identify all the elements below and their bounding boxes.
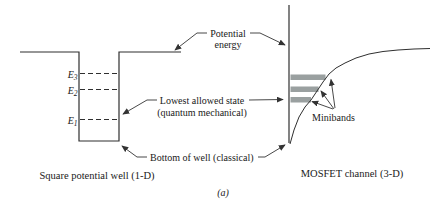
bottom-of-well-arrow-left [122, 146, 147, 157]
minibands-arrow-3 [331, 80, 335, 109]
lowest-state-arrow-right [249, 100, 283, 101]
lowest-state-label-line2: (quantum mechanical) [157, 107, 247, 119]
minibands-arrow-2 [321, 91, 334, 109]
miniband-bar-1 [291, 75, 326, 81]
potential-energy-arrow-left [175, 33, 207, 50]
lowest-state-label-line1: Lowest allowed state [160, 95, 245, 106]
bottom-of-well-label: Bottom of well (classical) [150, 152, 254, 164]
miniband-bar-3 [291, 97, 312, 103]
miniband-bar-2 [291, 87, 319, 93]
mosfet-potential-curve [290, 49, 430, 145]
square-well-outline [20, 52, 181, 141]
right-panel-caption: MOSFET channel (3-D) [301, 168, 404, 180]
potential-energy-arrow-right [250, 33, 285, 45]
panel-label: (a) [217, 187, 229, 199]
bottom-of-well-arrow-right [258, 145, 285, 157]
potential-energy-label-line1: Potential [210, 28, 246, 39]
figure-energy-band-diagram: E3 E2 E1 Potential energy Lowest allowed… [0, 0, 440, 213]
minibands-label: Minibands [312, 112, 355, 123]
potential-energy-label-line2: energy [214, 39, 241, 50]
diagram-canvas: E3 E2 E1 Potential energy Lowest allowed… [0, 0, 440, 213]
energy-level-E3-label: E3 [67, 69, 78, 82]
lowest-state-arrow-left [123, 100, 157, 114]
left-panel-caption: Square potential well (1-D) [39, 170, 155, 182]
energy-level-E1-label: E1 [67, 115, 78, 128]
energy-level-E2-label: E2 [67, 85, 78, 98]
